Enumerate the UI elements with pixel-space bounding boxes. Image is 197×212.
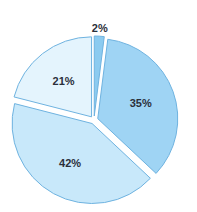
slice-label: 35% — [130, 97, 152, 109]
slice-label: 21% — [53, 75, 75, 87]
pie-chart: 2%35%42%21% — [0, 0, 197, 212]
slice-label: 42% — [59, 157, 81, 169]
slice-label: 2% — [92, 22, 108, 34]
